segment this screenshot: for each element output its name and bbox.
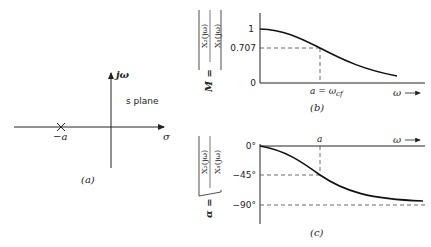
svg-text:M =: M = xyxy=(203,69,214,93)
phase-ylabel: α = X₂(jω) X₁(jω) xyxy=(199,136,222,218)
caption-b: (b) xyxy=(310,102,324,113)
s-plane-label: s plane xyxy=(126,96,159,106)
magnitude-ylabel: M = X₂(jω) X₁(jω) xyxy=(199,10,222,93)
pole-label: −a xyxy=(53,131,67,142)
panel-a-s-plane: −a jω s plane σ (a) xyxy=(14,69,171,185)
panel-b-magnitude-plot: 1 0.707 0 a = ωcf ω (b) M = X₂(jω) X₁(jω… xyxy=(199,10,425,113)
caption-a: (a) xyxy=(81,174,95,185)
phase-curve xyxy=(260,146,423,201)
a-label: a xyxy=(317,134,322,144)
panel-c-phase-plot: 0° −45° −90° a ω (c) α = X₂(jω) X₁(jω) xyxy=(199,134,425,238)
magnitude-curve xyxy=(260,29,397,76)
caption-c: (c) xyxy=(310,227,324,238)
svg-text:X₂(jω): X₂(jω) xyxy=(200,24,209,48)
cutoff-label: a = ωcf xyxy=(310,86,344,98)
ytick-0: 0 xyxy=(250,78,256,88)
svg-text:α =: α = xyxy=(203,198,214,218)
diagram: −a jω s plane σ (a) 1 0.707 0 a = ωcf ω … xyxy=(0,0,431,247)
omega-axis-label: ω xyxy=(393,87,401,98)
real-axis-label: σ xyxy=(163,131,171,142)
ytick-minus90: −90° xyxy=(233,200,257,210)
omega-axis-label: ω xyxy=(393,134,401,145)
ytick-1: 1 xyxy=(248,24,254,34)
svg-text:X₁(jω): X₁(jω) xyxy=(213,24,222,48)
ytick-0707: 0.707 xyxy=(230,43,256,53)
ytick-0deg: 0° xyxy=(246,141,256,151)
svg-text:X₁(jω): X₁(jω) xyxy=(213,150,222,174)
svg-text:X₂(jω): X₂(jω) xyxy=(200,150,209,174)
ytick-minus45: −45° xyxy=(233,170,257,180)
imag-axis-label: jω xyxy=(114,69,130,80)
